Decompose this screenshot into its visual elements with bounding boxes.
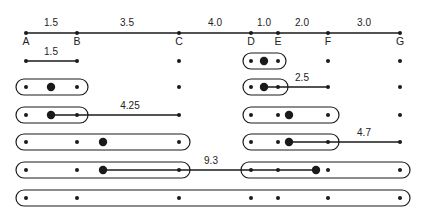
- merge-step-4: 4.7: [16, 127, 402, 150]
- point-g: [398, 196, 402, 200]
- diagram-svg: ABCDEFG1.53.54.01.02.03.0 1.52.54.254.79…: [0, 0, 423, 221]
- point-a: [24, 85, 28, 89]
- merge-step-6: [16, 190, 410, 206]
- point-label-g: G: [396, 35, 404, 47]
- point-g: [398, 85, 402, 89]
- gap-label: 1.0: [257, 17, 271, 28]
- gap-label: 4.0: [208, 17, 222, 28]
- point-e: [276, 113, 280, 117]
- point-label-e: E: [274, 35, 281, 47]
- merge-step-2: 2.5: [16, 72, 402, 95]
- point-f: [326, 85, 330, 89]
- clustering-diagram: ABCDEFG1.53.54.01.02.03.0 1.52.54.254.79…: [0, 0, 423, 221]
- centroid-marker: [285, 111, 293, 119]
- point-label-a: A: [22, 35, 29, 47]
- point-a: [24, 196, 28, 200]
- point-c: [177, 113, 181, 117]
- point-d: [249, 196, 253, 200]
- point-b: [75, 168, 79, 172]
- point-b: [75, 113, 79, 117]
- point-d: [249, 140, 253, 144]
- point-e: [276, 85, 280, 89]
- gap-label: 3.5: [120, 17, 134, 28]
- merge-distance-label: 4.25: [120, 100, 140, 111]
- point-f: [326, 113, 330, 117]
- point-a: [24, 168, 28, 172]
- merge-steps: 1.52.54.254.79.3: [16, 46, 410, 206]
- point-b: [75, 59, 79, 63]
- merge-distance-label: 2.5: [295, 72, 309, 83]
- point-b: [75, 85, 79, 89]
- point-a: [24, 59, 28, 63]
- merge-step-5: 9.3: [16, 155, 410, 178]
- point-c: [177, 85, 181, 89]
- centroid-marker: [99, 166, 107, 174]
- point-f: [326, 168, 330, 172]
- point-d: [249, 113, 253, 117]
- centroid-marker: [99, 138, 107, 146]
- point-label-f: F: [325, 35, 331, 47]
- point-b: [75, 140, 79, 144]
- point-c: [177, 59, 181, 63]
- point-a: [24, 113, 28, 117]
- point-d: [249, 59, 253, 63]
- point-c: [177, 168, 181, 172]
- merge-step-3: 4.25: [16, 100, 402, 123]
- gap-label: 1.5: [44, 17, 58, 28]
- centroid-marker: [47, 83, 55, 91]
- point-b: [75, 196, 79, 200]
- merge-distance-label: 1.5: [44, 46, 58, 57]
- point-g: [398, 113, 402, 117]
- point-a: [24, 140, 28, 144]
- merge-distance-label: 9.3: [204, 155, 218, 166]
- point-e: [276, 196, 280, 200]
- merge-distance-label: 4.7: [357, 127, 371, 138]
- point-d: [249, 168, 253, 172]
- point-g: [398, 168, 402, 172]
- centroid-marker: [47, 111, 55, 119]
- point-e: [276, 168, 280, 172]
- centroid-marker: [260, 57, 268, 65]
- point-e: [276, 59, 280, 63]
- point-f: [326, 59, 330, 63]
- centroid-marker: [285, 138, 293, 146]
- distance-axis: ABCDEFG1.53.54.01.02.03.0: [22, 17, 404, 47]
- gap-label: 2.0: [295, 17, 309, 28]
- point-d: [249, 85, 253, 89]
- centroid-marker: [312, 166, 320, 174]
- point-c: [177, 140, 181, 144]
- point-c: [177, 196, 181, 200]
- point-f: [326, 140, 330, 144]
- point-label-c: C: [175, 35, 183, 47]
- point-g: [398, 59, 402, 63]
- merge-step-1: 1.5: [24, 46, 402, 69]
- gap-label: 3.0: [357, 17, 371, 28]
- point-e: [276, 140, 280, 144]
- point-label-b: B: [73, 35, 80, 47]
- point-g: [398, 140, 402, 144]
- centroid-marker: [260, 83, 268, 91]
- point-f: [326, 196, 330, 200]
- point-label-d: D: [247, 35, 255, 47]
